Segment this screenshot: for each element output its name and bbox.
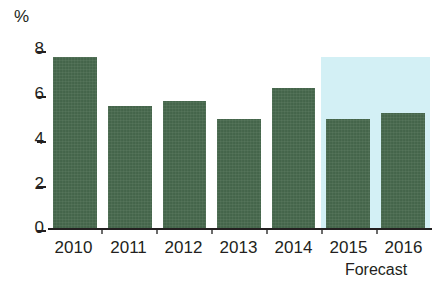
x-axis-label-2015: 2015 xyxy=(321,238,376,258)
bar-2014 xyxy=(272,88,316,229)
x-axis-tickmark xyxy=(101,230,103,234)
bar-texture xyxy=(326,119,370,229)
y-axis-tick-label-8: 8 xyxy=(35,40,44,57)
x-axis-label-2010: 2010 xyxy=(46,238,101,258)
y-axis-tick-label-4: 4 xyxy=(35,130,44,147)
x-axis-label-2014: 2014 xyxy=(266,238,321,258)
forecast-caption-label: Forecast xyxy=(321,260,431,279)
bar-texture xyxy=(108,106,152,229)
y-axis-tick-dash xyxy=(37,186,46,188)
x-axis-tickmark xyxy=(156,230,158,234)
x-axis-label-2012: 2012 xyxy=(156,238,211,258)
y-axis-unit-label: % xyxy=(14,8,29,25)
y-axis-tick-label-0: 0 xyxy=(35,219,44,236)
y-axis-tick-2: 2 xyxy=(0,175,46,192)
bar-texture xyxy=(163,101,207,229)
x-axis-tickmark xyxy=(266,230,268,234)
bar-2012 xyxy=(163,101,207,229)
y-axis-tick-label-2: 2 xyxy=(35,175,44,192)
bar-texture xyxy=(272,88,316,229)
y-axis-tick-8: 8 xyxy=(0,40,46,57)
y-axis-tick-dash xyxy=(37,96,46,98)
y-axis-tick-6: 6 xyxy=(0,85,46,102)
x-axis-tickmark xyxy=(376,230,378,234)
bar-chart: % 8 6 4 2 0 xyxy=(0,0,442,282)
bar-2016 xyxy=(381,113,425,229)
y-axis-tick-dash xyxy=(37,51,46,53)
bar-texture xyxy=(53,57,97,229)
bar-2011 xyxy=(108,106,152,229)
x-axis-label-2016: 2016 xyxy=(376,238,431,258)
y-axis-tick-label-6: 6 xyxy=(35,85,44,102)
y-axis-tick-dash xyxy=(37,141,46,143)
bar-texture xyxy=(217,119,261,229)
x-axis-tickmark xyxy=(321,230,323,234)
x-axis-baseline xyxy=(48,228,432,230)
y-axis-tick-dash xyxy=(37,230,46,232)
bar-texture xyxy=(381,113,425,229)
x-axis-label-2013: 2013 xyxy=(211,238,266,258)
y-axis-tick-0: 0 xyxy=(0,219,46,236)
x-axis-tickmark xyxy=(211,230,213,234)
bar-2013 xyxy=(217,119,261,229)
bar-2010 xyxy=(53,57,97,229)
x-axis-label-2011: 2011 xyxy=(101,238,156,258)
plot-area xyxy=(48,40,430,229)
bar-2015 xyxy=(326,119,370,229)
y-axis-tick-4: 4 xyxy=(0,130,46,147)
